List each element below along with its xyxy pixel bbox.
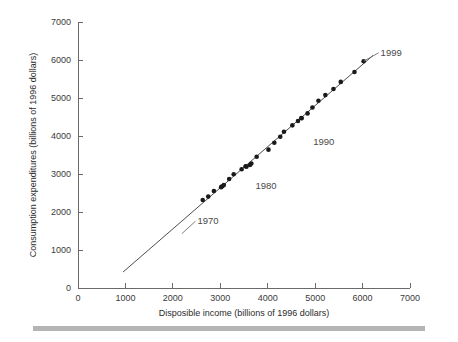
data-point	[254, 154, 259, 159]
axis-layer: 0100020003000400050006000700001000200030…	[28, 17, 420, 318]
data-point	[282, 129, 287, 134]
regression-line	[123, 55, 373, 272]
x-axis-title: Disposible income (billions of 1996 doll…	[159, 308, 330, 318]
data-point	[266, 147, 271, 152]
data-point	[231, 172, 236, 177]
x-axis-tick-label: 7000	[400, 293, 420, 303]
data-point	[272, 141, 277, 146]
y-axis-tick-label: 3000	[51, 169, 71, 179]
y-axis-title: Consumption expenditures (billions of 19…	[28, 53, 38, 258]
annotation-leader-line	[182, 221, 196, 234]
y-axis-tick-label: 4000	[51, 131, 71, 141]
data-point	[290, 123, 295, 128]
y-axis-tick-label: 1000	[51, 245, 71, 255]
chart-figure: 0100020003000400050006000700001000200030…	[0, 0, 458, 342]
x-axis-tick-label: 6000	[353, 293, 373, 303]
data-point	[299, 116, 304, 121]
year-annotation-1980: 1980	[255, 180, 276, 191]
data-point	[212, 189, 217, 194]
scatter-plot: 0100020003000400050006000700001000200030…	[0, 0, 458, 342]
data-layer	[123, 55, 373, 272]
data-point	[338, 80, 343, 85]
x-axis-tick-label: 2000	[163, 293, 183, 303]
data-point	[227, 177, 232, 182]
y-axis-tick-label: 5000	[51, 93, 71, 103]
footer-divider-bar	[33, 326, 425, 331]
y-axis-tick-label: 6000	[51, 55, 71, 65]
data-point	[249, 161, 254, 166]
year-annotation-1970: 1970	[198, 215, 219, 226]
x-axis-tick-label: 1000	[115, 293, 135, 303]
data-point	[310, 105, 315, 110]
annotation-layer: 1970198019901999	[182, 47, 402, 234]
data-point	[278, 134, 283, 139]
x-axis-tick-label: 5000	[305, 293, 325, 303]
data-point	[222, 183, 227, 188]
y-axis-tick-label: 7000	[51, 17, 71, 27]
data-point	[206, 194, 211, 199]
data-point	[323, 93, 328, 98]
y-axis-tick-label: 2000	[51, 207, 71, 217]
year-annotation-1999: 1999	[381, 47, 402, 58]
data-point	[200, 198, 205, 203]
x-axis-tick-label: 3000	[210, 293, 230, 303]
year-annotation-1990: 1990	[313, 136, 334, 147]
y-axis-tick-label: 0	[66, 283, 71, 293]
x-axis-tick-label: 0	[75, 293, 80, 303]
data-point	[331, 87, 336, 92]
annotation-leader-line	[364, 53, 379, 61]
data-point	[305, 111, 310, 116]
data-point	[316, 98, 321, 103]
data-point	[239, 167, 244, 172]
data-point	[352, 70, 357, 75]
x-axis-tick-label: 4000	[258, 293, 278, 303]
